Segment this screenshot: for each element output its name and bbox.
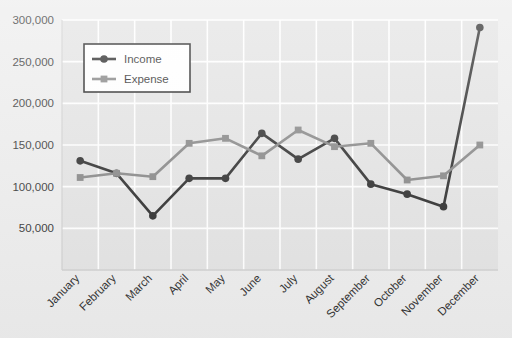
data-point-expense (113, 170, 120, 177)
legend-marker-income (100, 55, 108, 63)
data-point-income (476, 24, 484, 32)
data-point-expense (258, 152, 265, 159)
x-axis-tick-label: April (166, 272, 191, 297)
data-point-income (367, 180, 375, 188)
data-point-income (222, 175, 230, 183)
data-point-income (185, 175, 193, 183)
x-axis-tick-label: June (237, 272, 263, 298)
data-point-expense (331, 143, 338, 150)
y-axis-tick-label: 150,000 (12, 139, 54, 151)
y-axis-tick-label: 300,000 (12, 14, 54, 26)
data-point-income (331, 135, 339, 143)
x-axis-tick-label: October (371, 272, 409, 310)
data-point-income (258, 130, 266, 138)
data-point-expense (222, 135, 229, 142)
data-point-expense (149, 173, 156, 180)
data-point-income (403, 190, 411, 198)
data-point-income (76, 157, 84, 165)
y-axis-tick-label: 250,000 (12, 56, 54, 68)
legend-label-expense: Expense (124, 73, 169, 85)
line-chart: 50,000100,000150,000200,000250,000300,00… (0, 0, 512, 338)
x-axis-tick-label: March (123, 272, 154, 303)
x-axis-tick-label: August (302, 271, 336, 305)
legend-label-income: Income (124, 53, 162, 65)
data-point-income (149, 212, 157, 220)
y-axis-tick-label: 100,000 (12, 181, 54, 193)
data-point-expense (404, 177, 411, 184)
y-axis-tick-label: 200,000 (12, 97, 54, 109)
data-point-expense (77, 174, 84, 181)
data-point-income (294, 155, 302, 163)
data-point-expense (295, 127, 302, 134)
y-axis-tick-label: 50,000 (19, 222, 54, 234)
x-axis-tick-label: January (44, 272, 82, 310)
x-axis-tick-label: May (203, 272, 227, 296)
legend-marker-expense (101, 76, 108, 83)
data-point-income (440, 203, 448, 211)
x-axis-tick-label: July (277, 272, 300, 295)
data-point-expense (440, 172, 447, 179)
x-axis-tick-label: February (77, 272, 118, 313)
chart-container: 50,000100,000150,000200,000250,000300,00… (0, 0, 512, 338)
data-point-expense (476, 142, 483, 149)
data-point-expense (367, 140, 374, 147)
data-point-expense (186, 140, 193, 147)
